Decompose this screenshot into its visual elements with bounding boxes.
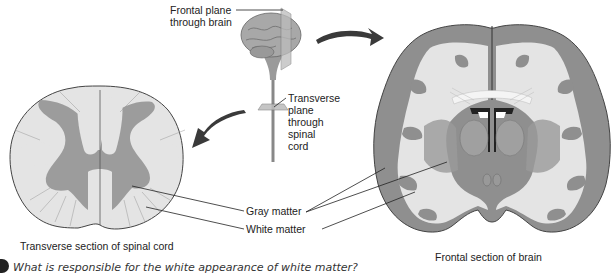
question-text: What is responsible for the white appear… [13,261,358,273]
label-frontal-plane: Frontal plane through brain [170,4,240,28]
caudate-left [460,120,488,156]
basal-nuclei-left [424,119,458,172]
question-icon [0,259,9,273]
frontal-plane [281,8,291,70]
arrow-to-brain-section [316,28,384,46]
mammillary-right [493,174,501,186]
basal-nuclei-right [526,119,560,172]
brain-frontal-section [374,25,611,232]
label-gray-matter: Gray matter [246,205,301,217]
arrow-to-spinal-section [192,110,246,148]
caption-spinal-cord: Transverse section of spinal cord [20,240,174,252]
leader-gray-brain-cortex [306,168,385,212]
mammillary-left [483,174,491,186]
spinal-cord-section [10,86,185,229]
caudate-right [496,120,524,156]
question-row: What is responsible for the white appear… [0,259,358,273]
leader-white-spinal [146,207,244,229]
caption-brain: Frontal section of brain [435,251,542,263]
label-transverse-plane: Transverse plane through spinal cord [288,92,348,152]
transverse-plane [258,104,288,110]
cerebellum [250,46,274,58]
label-white-matter: White matter [246,223,306,235]
